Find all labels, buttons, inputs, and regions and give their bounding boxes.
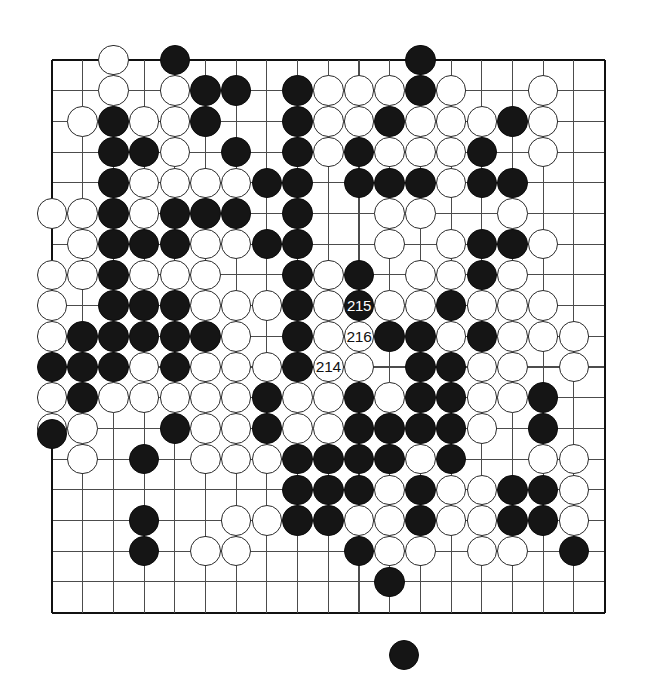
stone-white (67, 106, 98, 137)
stone-white (67, 198, 98, 229)
stone-black (282, 106, 313, 137)
stone-black (98, 290, 129, 321)
numbered-stone-216: 216 (344, 321, 375, 352)
stone-white (160, 260, 191, 291)
stone-white (221, 505, 252, 536)
stone-white (436, 106, 467, 137)
stone-black (497, 229, 528, 260)
stone-white (67, 444, 98, 475)
stone-white (559, 321, 590, 352)
stone-black (374, 444, 405, 475)
stone-white (467, 475, 498, 506)
stone-black (405, 382, 436, 413)
stone-white (467, 290, 498, 321)
stone-white (405, 198, 436, 229)
stone-black (282, 352, 313, 383)
stone-black (313, 475, 344, 506)
stone-white (497, 260, 528, 291)
stone-black (374, 106, 405, 137)
stone-white (344, 505, 375, 536)
stone-white (190, 382, 221, 413)
stone-black (252, 413, 283, 444)
stone-black (405, 75, 436, 106)
stone-black (190, 198, 221, 229)
numbered-stone-215: 215 (344, 290, 375, 321)
stone-white (252, 290, 283, 321)
stone-white (67, 413, 98, 444)
stone-white (559, 475, 590, 506)
stone-black (98, 106, 129, 137)
stone-white (467, 505, 498, 536)
move-number: 215 (347, 298, 371, 313)
stone-black (98, 260, 129, 291)
stone-black (405, 475, 436, 506)
stone-white (129, 382, 160, 413)
stone-black (160, 413, 191, 444)
stone-white (129, 198, 160, 229)
stone-black (497, 106, 528, 137)
stone-white (405, 536, 436, 567)
stone-white (405, 106, 436, 137)
stone-white (405, 444, 436, 475)
stone-black (497, 168, 528, 199)
stone-white (313, 260, 344, 291)
stone-black (344, 475, 375, 506)
stone-white (344, 75, 375, 106)
stone-white (67, 260, 98, 291)
stone-white (497, 536, 528, 567)
stone-black (405, 352, 436, 383)
stone-black (405, 168, 436, 199)
stone-black (98, 321, 129, 352)
stone-white (129, 106, 160, 137)
stone-black (344, 413, 375, 444)
stone-white (282, 413, 313, 444)
stone-black (252, 168, 283, 199)
stone-black (129, 290, 160, 321)
stone-white (160, 382, 191, 413)
stone-white (37, 321, 68, 352)
stone-black (528, 505, 559, 536)
stone-white (313, 137, 344, 168)
stone-black (313, 444, 344, 475)
stone-white (37, 198, 68, 229)
stone-white (405, 137, 436, 168)
move-number: 214 (316, 359, 341, 375)
stone-black (344, 382, 375, 413)
stone-white (374, 75, 405, 106)
stone-white (497, 382, 528, 413)
numbered-stone-214: 214 (313, 352, 344, 383)
stone-black (497, 505, 528, 536)
stone-black (98, 168, 129, 199)
stone-white (405, 290, 436, 321)
stone-black (282, 475, 313, 506)
stone-white (190, 168, 221, 199)
stone-black (190, 75, 221, 106)
stone-black (436, 413, 467, 444)
stone-black (129, 505, 160, 536)
stone-black (98, 137, 129, 168)
stone-white (405, 260, 436, 291)
stone-black (98, 198, 129, 229)
stone-white (467, 382, 498, 413)
stone-black (497, 475, 528, 506)
stone-white (160, 106, 191, 137)
stone-black (467, 168, 498, 199)
stone-black (282, 75, 313, 106)
stone-white (374, 137, 405, 168)
stone-black (160, 290, 191, 321)
stone-black (344, 168, 375, 199)
stone-black (467, 321, 498, 352)
stone-black (374, 413, 405, 444)
stone-white (344, 106, 375, 137)
stone-white (374, 475, 405, 506)
stone-white (282, 382, 313, 413)
stone-white (467, 106, 498, 137)
stone-black (190, 106, 221, 137)
stone-white (313, 290, 344, 321)
stone-black (436, 290, 467, 321)
stone-white (221, 321, 252, 352)
stone-white (313, 75, 344, 106)
stone-black (282, 229, 313, 260)
stone-black (436, 382, 467, 413)
stone-white (221, 413, 252, 444)
